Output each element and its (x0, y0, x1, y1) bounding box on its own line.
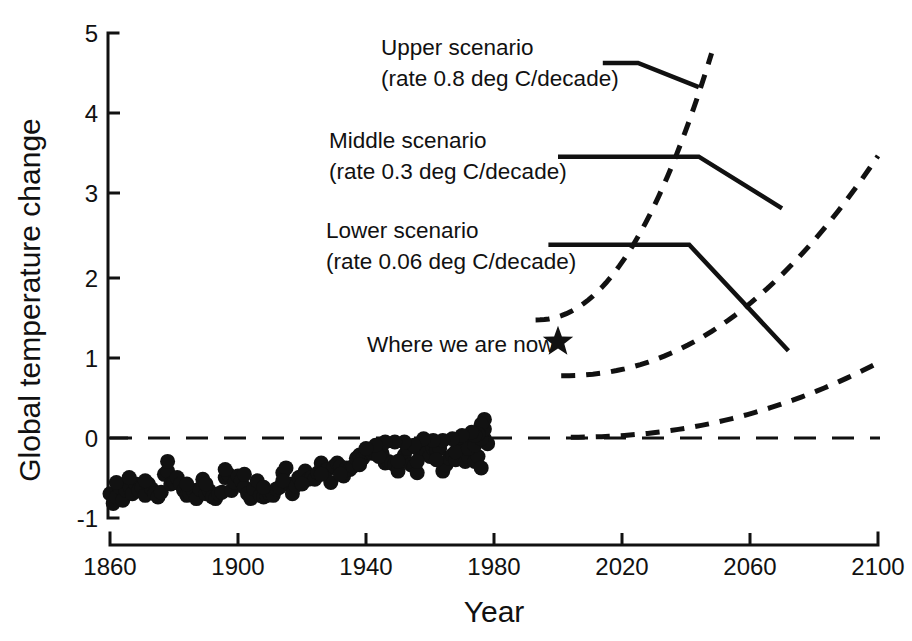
scatter-point (448, 444, 463, 459)
x-tick-1900: 1900 (211, 553, 264, 580)
scatter-point (295, 477, 310, 492)
scatter-point (410, 454, 425, 469)
scatter-point (429, 452, 444, 467)
x-tick-1940: 1940 (339, 553, 392, 580)
scatter-point (199, 477, 214, 492)
x-axis-title: Year (464, 595, 525, 628)
scatter-point (179, 477, 194, 492)
scatter-point (160, 454, 175, 469)
y-tick-3: 3 (85, 180, 98, 207)
scatter-point (218, 462, 233, 477)
temperature-projection-chart: Global temperature change Year 5 4 3 2 1… (0, 0, 912, 641)
y-tick-neg1: -1 (77, 505, 98, 532)
upper-scenario-line1: Upper scenario (381, 35, 534, 60)
scatter-point (474, 460, 489, 475)
y-tick-2: 2 (85, 265, 98, 292)
where-we-are-now-label: Where we are now (367, 332, 555, 357)
middle-scenario-line2: (rate 0.3 deg C/decade) (329, 159, 567, 184)
scatter-point (333, 467, 348, 482)
middle-scenario-line1: Middle scenario (329, 128, 487, 153)
lower-scenario-line2: (rate 0.06 deg C/decade) (326, 249, 576, 274)
chart-figure: Global temperature change Year 5 4 3 2 1… (0, 0, 912, 641)
scatter-point (138, 473, 153, 488)
y-tick-1: 1 (85, 345, 98, 372)
x-tick-1980: 1980 (467, 553, 520, 580)
scatter-point (256, 480, 271, 495)
x-tick-2100: 2100 (851, 553, 904, 580)
scatter-point (109, 475, 124, 490)
scatter-point (352, 457, 367, 472)
x-tick-2060: 2060 (723, 553, 776, 580)
scatter-point (275, 473, 290, 488)
x-tick-1860: 1860 (83, 553, 136, 580)
y-tick-4: 4 (85, 100, 98, 127)
y-tick-5: 5 (85, 20, 98, 47)
scatter-point (314, 467, 329, 482)
y-axis-title: Global temperature change (13, 118, 46, 482)
lower-scenario-line1: Lower scenario (326, 218, 479, 243)
y-tick-0: 0 (85, 425, 98, 452)
scatter-point (279, 460, 294, 475)
upper-scenario-line2: (rate 0.8 deg C/decade) (381, 66, 619, 91)
scatter-point (237, 467, 252, 482)
scatter-point (391, 454, 406, 469)
scatter-point (359, 441, 374, 456)
scatter-point (122, 470, 137, 485)
x-tick-2020: 2020 (595, 553, 648, 580)
